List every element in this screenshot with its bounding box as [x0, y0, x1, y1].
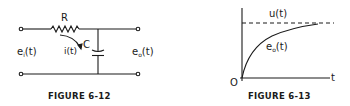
resistor-icon — [51, 26, 79, 32]
input-terminal-bottom — [19, 72, 23, 76]
output-terminal-bottom — [136, 72, 140, 76]
input-voltage-label: ei(t) — [17, 46, 37, 58]
origin-label: O — [230, 77, 238, 88]
figures-canvas: R C i(t) ei(t) eo(t) FIGURE 6-12 u(t) eo… — [0, 0, 350, 106]
figure-6-13-caption: FIGURE 6-13 — [248, 91, 311, 101]
time-axis-label: t — [331, 72, 335, 83]
rc-circuit-diagram — [19, 26, 140, 76]
capacitor-label: C — [83, 39, 90, 50]
resistor-label: R — [61, 12, 68, 23]
input-terminal-top — [19, 27, 23, 31]
current-arrowhead-icon — [78, 44, 82, 49]
output-terminal-top — [136, 27, 140, 31]
current-label: i(t) — [64, 46, 77, 56]
figure-6-12-caption: FIGURE 6-12 — [48, 91, 111, 101]
response-label: eo(t) — [266, 41, 288, 53]
step-label: u(t) — [269, 8, 287, 19]
output-voltage-label: eo(t) — [132, 46, 154, 58]
